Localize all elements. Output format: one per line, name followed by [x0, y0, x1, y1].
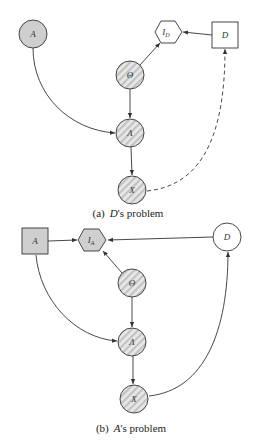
node-a-I-D: ID	[155, 21, 182, 43]
caption-prefix: (b)	[96, 422, 109, 435]
edge-a-lambda-to-X	[131, 147, 132, 175]
node-b-X: X	[120, 385, 148, 413]
node-label-sub: D	[164, 32, 170, 38]
caption-b: (b)A's problem	[96, 422, 167, 435]
node-label: X	[130, 394, 137, 404]
node-b-I-A: IA	[78, 229, 106, 251]
edge-b-A-to-IA	[48, 240, 77, 241]
node-b-theta: Θ	[118, 269, 146, 297]
node-label: D	[223, 232, 231, 242]
node-label: A	[29, 29, 36, 39]
node-label: Θ	[129, 278, 136, 288]
caption-suffix: 's problem	[120, 422, 166, 434]
edge-a-D-to-ID	[183, 32, 212, 35]
edge-b-theta-to-IA	[103, 251, 122, 273]
caption-suffix: 's problem	[118, 207, 164, 219]
node-label: A	[31, 236, 38, 246]
node-label: Θ	[127, 70, 134, 80]
caption-a: (a)D's problem	[93, 207, 164, 220]
caption-prefix: (a)	[93, 207, 106, 220]
caption-agent: D	[109, 207, 118, 219]
figure-b: A IA D Θ Λ X (b)A's problem	[22, 223, 241, 435]
node-b-lambda: Λ	[118, 328, 146, 356]
node-a-A: A	[19, 20, 47, 48]
node-a-lambda: Λ	[116, 119, 144, 147]
node-b-A: A	[22, 228, 48, 254]
node-a-theta: Θ	[116, 61, 144, 89]
influence-diagrams: A ID D Θ Λ X (a)D's problem	[0, 0, 255, 441]
node-label: Λ	[126, 128, 133, 138]
edge-b-A-to-lambda	[36, 255, 117, 341]
edge-a-A-to-lambda	[33, 48, 115, 133]
figure-a: A ID D Θ Λ X (a)D's problem	[19, 20, 238, 220]
node-a-D: D	[212, 22, 238, 48]
node-label-sub: A	[90, 240, 95, 246]
node-label: X	[128, 185, 135, 195]
node-label: Λ	[128, 337, 135, 347]
edge-b-X-to-D	[149, 252, 228, 396]
node-b-D: D	[213, 223, 241, 251]
node-label: D	[221, 30, 229, 40]
edge-a-X-to-D	[147, 49, 225, 191]
node-a-X: X	[118, 176, 146, 204]
edge-a-theta-to-ID	[140, 43, 160, 65]
edge-b-D-to-IA	[108, 237, 213, 240]
